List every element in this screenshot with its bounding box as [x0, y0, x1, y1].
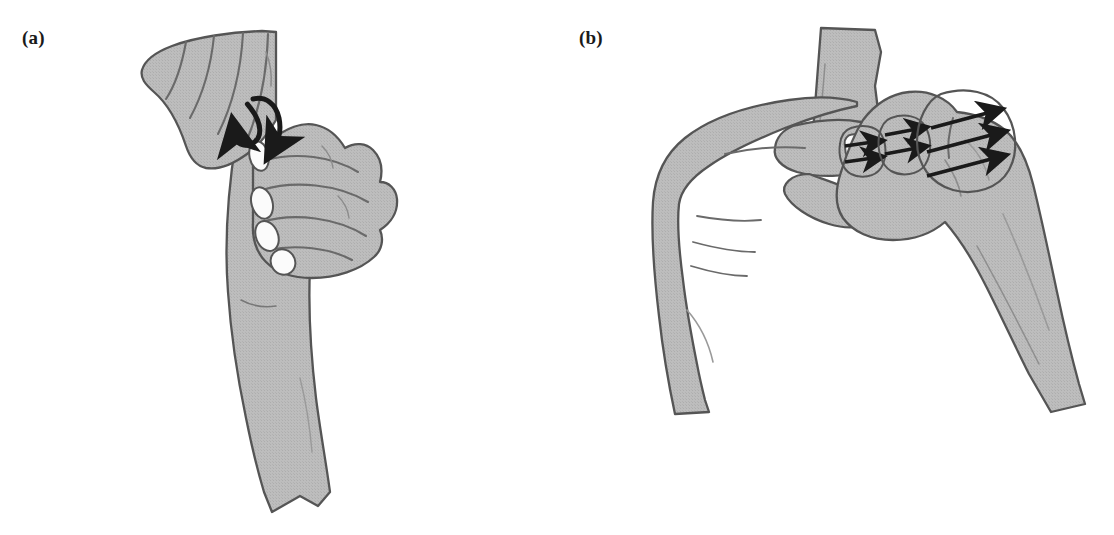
left-hand-crease-4	[691, 266, 747, 276]
right-hand-group	[837, 92, 1085, 412]
left-hand-crease-2	[697, 216, 761, 221]
panel-b-illustration	[557, 0, 1114, 535]
examiner-hand-group	[247, 124, 398, 279]
figure-root: (a)	[0, 0, 1114, 535]
right-hand-and-forearm	[837, 92, 1085, 412]
panel-b: (b)	[557, 0, 1114, 535]
left-hand-crease-3	[693, 242, 755, 252]
panel-a-illustration	[0, 0, 557, 535]
panel-a: (a)	[0, 0, 557, 535]
